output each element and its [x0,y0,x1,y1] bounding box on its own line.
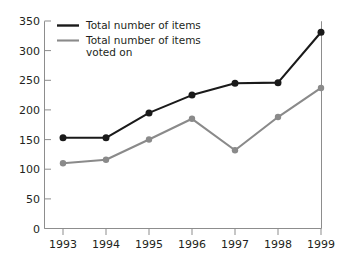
x-axis-tick-labels: 1993 1994 1995 1996 1997 1998 1999 [49,238,335,251]
data-point [103,134,110,141]
y-tick-label: 50 [26,193,40,206]
series-line-voted-on [63,88,321,163]
y-tick-label: 150 [19,134,40,147]
x-axis-ticks [63,229,321,236]
y-tick-label: 100 [19,163,40,176]
legend: Total number of items Total number of it… [57,19,201,58]
data-point [146,136,152,142]
chart-canvas: 0 50 100 150 200 250 300 350 1993 1994 1… [0,0,350,267]
data-point [318,29,325,36]
line-chart: 0 50 100 150 200 250 300 350 1993 1994 1… [0,0,350,267]
y-axis-tick-labels: 0 50 100 150 200 250 300 350 [19,15,40,236]
data-point [232,147,238,153]
x-tick-label: 1995 [135,238,163,251]
data-point [189,92,196,99]
data-point [60,134,67,141]
legend-label-voted-on-line2: voted on [86,46,132,58]
data-point [275,79,282,86]
y-tick-label: 300 [19,45,40,58]
x-tick-label: 1996 [178,238,206,251]
legend-label-total-items: Total number of items [85,19,201,31]
data-point [189,116,195,122]
data-point [318,85,324,91]
data-point [60,160,66,166]
data-point [146,109,153,116]
y-tick-label: 0 [33,223,40,236]
x-tick-label: 1999 [307,238,335,251]
y-tick-label: 200 [19,104,40,117]
x-tick-label: 1993 [49,238,77,251]
data-point [232,80,239,87]
data-point [275,114,281,120]
y-axis-ticks [45,21,52,229]
y-tick-label: 250 [19,74,40,87]
x-tick-label: 1997 [221,238,249,251]
y-tick-label: 350 [19,15,40,28]
legend-label-voted-on-line1: Total number of items [85,34,201,46]
data-point [103,157,109,163]
x-tick-label: 1998 [264,238,292,251]
x-tick-label: 1994 [92,238,120,251]
